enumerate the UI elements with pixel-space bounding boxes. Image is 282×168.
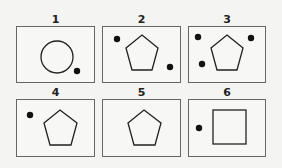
panel-6: 6 <box>188 99 266 157</box>
panel-label: 1 <box>16 13 95 26</box>
square-shape-icon <box>188 99 266 157</box>
panel-3: 3 <box>188 26 266 83</box>
panel-label: 3 <box>188 13 266 26</box>
panel-4: 4 <box>16 99 95 157</box>
panel-label: 4 <box>16 86 95 99</box>
dot-icon <box>114 36 120 42</box>
panel-label: 5 <box>102 86 181 99</box>
dot-icon <box>195 34 201 40</box>
dot-icon <box>199 61 205 67</box>
panel-label: 6 <box>188 86 266 99</box>
panel-2: 2 <box>102 26 181 83</box>
pentagon-shape-icon <box>102 26 181 83</box>
dot-icon <box>248 35 254 41</box>
panel-1: 1 <box>16 26 95 83</box>
pentagon-shape-icon <box>188 26 266 83</box>
panel-label: 2 <box>102 13 181 26</box>
dot-icon <box>167 64 173 70</box>
dot-icon <box>27 112 33 118</box>
pentagon-shape-icon <box>102 99 181 157</box>
pentagon-shape-icon <box>16 99 95 157</box>
panel-5: 5 <box>102 99 181 157</box>
circle-shape-icon <box>16 26 95 83</box>
dot-icon <box>196 125 202 131</box>
dot-icon <box>74 68 80 74</box>
